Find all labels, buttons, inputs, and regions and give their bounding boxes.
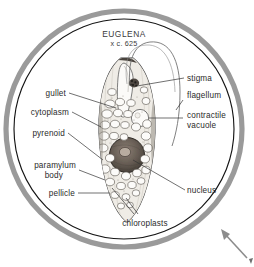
label-paramylum-body-line2: body [45,171,64,180]
nucleus [110,138,145,173]
label-cytoplasm: cytoplasm [31,108,69,117]
label-contractile-vacuole-line2: vacuole [187,121,217,130]
euglena-diagram: EUGLENA x c. 625 gullet cytoplasm pyreno… [0,0,254,267]
figure-title: EUGLENA [102,29,146,39]
label-stigma: stigma [187,74,212,83]
contractile-vacuole-inner [135,113,140,118]
nucleolus [119,147,130,156]
label-nucleus: nucleus [187,186,216,195]
figure-magnification: x c. 625 [111,39,138,48]
label-chloroplasts: chloroplasts [122,219,168,228]
label-contractile-vacuole-line1: contractile [187,111,226,120]
label-pellicle: pellicle [49,189,76,198]
label-pyrenoid: pyrenoid [32,129,65,138]
label-flagellum: flagellum [187,91,221,100]
label-gullet: gullet [46,89,67,98]
label-paramylum-body-line1: paramylum [34,161,76,170]
